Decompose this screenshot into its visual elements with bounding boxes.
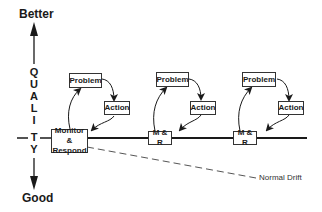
axis-letter-i: I <box>28 114 40 126</box>
monitor-line2: Respond <box>52 146 86 156</box>
problem-box-3: Problem <box>242 72 276 87</box>
action-box-2: Action <box>190 101 216 115</box>
arrow-down-icon <box>30 176 38 190</box>
problem-box-1: Problem <box>69 73 102 88</box>
axis-letter-t: T <box>28 131 40 143</box>
axis-letter-l: L <box>28 102 40 114</box>
action-box-1: Action <box>104 101 130 115</box>
axis-letter-u: U <box>28 78 40 90</box>
action-box-3: Action <box>278 101 304 115</box>
axis-label-better: Better <box>19 7 54 21</box>
problem-box-2: Problem <box>156 72 189 87</box>
monitor-respond-box-2: M & R <box>148 131 172 145</box>
axis-letter-a: A <box>28 90 40 102</box>
monitor-respond-box: Monitor & Respond <box>51 129 88 153</box>
monitor-respond-box-3: M & R <box>233 131 257 145</box>
axis-letter-q: Q <box>28 66 40 78</box>
normal-drift-line <box>87 147 256 178</box>
monitor-line1: Monitor & <box>52 126 87 146</box>
normal-drift-label: Normal Drift <box>259 173 302 182</box>
axis-label-good: Good <box>22 191 53 205</box>
arrow-up-icon <box>30 22 38 36</box>
axis-letter-y: Y <box>28 143 40 155</box>
